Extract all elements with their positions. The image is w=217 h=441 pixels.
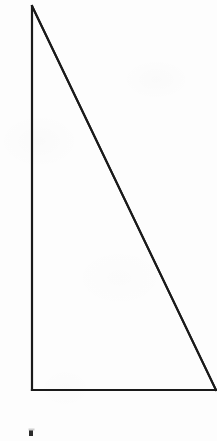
bottom-mark-icon: [29, 430, 33, 436]
figure-page: [0, 0, 217, 441]
triangle-figure-canvas: [0, 0, 217, 441]
bottom-mark-faint-icon: [29, 429, 35, 431]
